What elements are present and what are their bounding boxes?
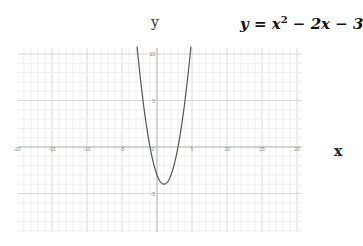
x-tick-label: 20 <box>294 146 300 152</box>
x-tick-label: -15 <box>48 146 55 152</box>
x-tick-label: -10 <box>83 146 90 152</box>
y-tick-label: 10 <box>149 51 155 57</box>
x-tick-label: 15 <box>259 146 265 152</box>
y-tick-label: 5 <box>152 98 155 104</box>
y-tick-label: -5 <box>151 191 156 197</box>
x-tick-label: -20 <box>13 146 20 152</box>
x-tick-label: -5 <box>120 146 125 152</box>
x-tick-label: 10 <box>224 146 230 152</box>
x-tick-label: 5 <box>191 146 194 152</box>
x-tick-label: 0 <box>152 146 155 152</box>
